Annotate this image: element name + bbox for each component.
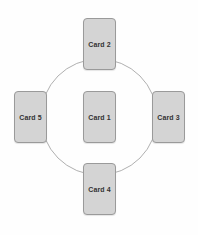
card-4-label: Card 4 <box>88 186 110 193</box>
card-1-label: Card 1 <box>88 114 110 121</box>
card-5-label: Card 5 <box>19 114 41 121</box>
card-2[interactable]: Card 2 <box>83 18 116 70</box>
card-2-label: Card 2 <box>88 41 110 48</box>
diagram-canvas: Card 2 Card 5 Card 1 Card 3 Card 4 <box>0 0 198 235</box>
card-1[interactable]: Card 1 <box>83 91 116 143</box>
card-3-label: Card 3 <box>157 114 179 121</box>
card-3[interactable]: Card 3 <box>152 91 185 143</box>
card-4[interactable]: Card 4 <box>83 163 116 215</box>
card-5[interactable]: Card 5 <box>14 91 47 143</box>
